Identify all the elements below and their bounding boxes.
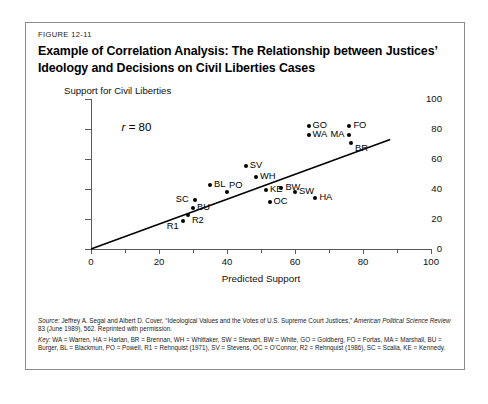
source-journal: American Political Science Review — [354, 317, 451, 324]
data-point-label: BL — [214, 180, 225, 189]
x-axis-label: Predicted Support — [91, 273, 431, 284]
data-point — [225, 190, 229, 194]
data-point-label: MA — [330, 130, 344, 139]
source-prefix: Source: — [38, 317, 60, 324]
data-point — [307, 133, 311, 137]
data-point — [186, 213, 190, 217]
data-point-label: BR — [355, 144, 368, 153]
data-point-label: BU — [197, 203, 210, 212]
source-body-1: Jeffrey A. Segal and Albert D. Cover, “I… — [60, 317, 354, 324]
data-point-label: R2 — [192, 216, 204, 225]
data-point-label: WA — [313, 130, 328, 139]
figure-card: FIGURE 12-11 Example of Correlation Anal… — [25, 22, 465, 370]
data-point-label: FO — [353, 121, 366, 130]
plot-area: 020406080100 020406080100 R1R2BUSCBLPOSV… — [66, 99, 442, 259]
data-point — [264, 188, 268, 192]
data-point-label: R1 — [167, 222, 179, 231]
data-point — [181, 219, 185, 223]
key-note: Key: WA = Warren, HA = Harlan, BR = Bren… — [38, 336, 458, 353]
source-note: Source: Jeffrey A. Segal and Albert D. C… — [38, 317, 456, 333]
source-body-2: 83 (June 1989), 562. Reprinted with perm… — [38, 325, 172, 332]
data-point-label: WH — [260, 172, 276, 181]
data-point — [244, 164, 248, 168]
data-point — [193, 198, 197, 202]
data-point — [208, 183, 212, 187]
data-point-label: PO — [229, 181, 242, 190]
figure-title: Example of Correlation Analysis: The Rel… — [38, 43, 454, 76]
data-point-label: HA — [319, 193, 332, 202]
data-point — [191, 206, 195, 210]
y-axis-label: Support for Civil Liberties — [64, 85, 171, 96]
r-value: = 80 — [125, 121, 151, 133]
scatter-plot: Support for Civil Liberties 020406080100… — [26, 85, 466, 315]
data-point-label: OC — [274, 197, 288, 206]
key-text: WA = Warren, HA = Harlan, BR = Brennan, … — [38, 336, 445, 351]
data-point-label: SV — [250, 161, 262, 170]
data-point — [268, 200, 272, 204]
data-point — [307, 124, 311, 128]
key-prefix: Key: — [38, 336, 51, 343]
data-point — [254, 175, 258, 179]
correlation-annotation: r = 80 — [122, 121, 152, 133]
data-point — [349, 141, 353, 145]
figure-label: FIGURE 12-11 — [38, 30, 92, 39]
data-point-label: SC — [176, 195, 189, 204]
data-point — [293, 190, 297, 194]
data-point-label: SW — [299, 187, 314, 196]
data-point — [279, 186, 283, 190]
